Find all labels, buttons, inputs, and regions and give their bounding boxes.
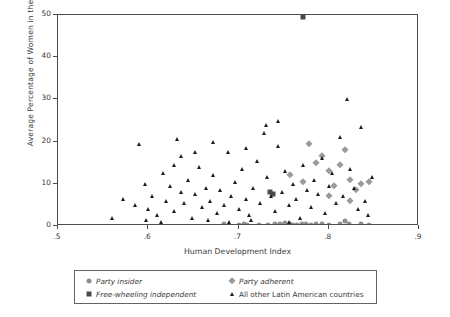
legend-label: All other Latin American countries [239,290,363,299]
data-point-triangle [359,125,363,129]
data-point-triangle [229,194,233,198]
legend-entry: Party adherent [227,275,294,287]
data-point-circle [266,222,271,224]
data-point-triangle [237,207,241,211]
data-point-triangle [193,150,197,154]
data-point-triangle [143,182,147,186]
data-point-triangle [121,197,125,201]
triangle-icon [230,292,234,296]
data-point-circle [222,222,227,224]
data-point-triangle [249,218,253,222]
data-point-triangle [200,205,204,209]
y-tick-label: 30 [21,93,51,102]
legend: Party insiderParty adherentFree-wheeling… [74,270,377,304]
data-point-triangle [150,194,154,198]
y-tick-label: 0 [21,220,51,229]
data-point-diamond [325,193,333,201]
data-point-triangle [370,175,374,179]
data-point-triangle [276,144,280,148]
data-point-triangle [227,220,231,224]
square-icon [87,292,92,297]
x-tick-label: .6 [132,232,162,241]
data-point-diamond [300,178,308,186]
data-point-circle [359,222,364,224]
scatter-plot-figure: Average Percentage of Women in the Cabin… [0,0,450,317]
data-point-triangle [262,131,266,135]
data-point-triangle [345,97,349,101]
data-point-triangle [155,213,159,217]
data-point-triangle [312,178,316,182]
data-point-triangle [233,180,237,184]
data-point-triangle [211,173,215,177]
data-point-triangle [273,209,277,213]
data-point-triangle [264,123,268,127]
data-point-triangle [144,218,148,222]
legend-label: Party adherent [239,277,294,286]
data-point-triangle [215,211,219,215]
data-point-triangle [133,203,137,207]
data-point-triangle [323,211,327,215]
data-point-diamond [347,176,355,184]
data-point-circle [326,222,331,224]
data-point-triangle [244,146,248,150]
y-tick-label: 20 [21,136,51,145]
data-point-triangle [366,213,370,217]
data-point-triangle [294,197,298,201]
data-point-triangle [197,165,201,169]
x-tick-mark [57,225,58,229]
data-point-triangle [291,182,295,186]
plot-frame [57,14,418,225]
data-point-triangle [190,216,194,220]
data-point-triangle [320,156,324,160]
x-axis-title: Human Development Index [57,247,418,256]
y-tick-label: 10 [21,178,51,187]
diamond-icon [228,277,236,285]
x-tick-mark [418,225,419,229]
data-point-triangle [240,167,244,171]
data-point-triangle [179,190,183,194]
data-point-triangle [301,163,305,167]
x-tick-label: .5 [42,232,72,241]
data-point-circle [244,223,249,224]
data-point-diamond [341,146,349,154]
legend-label: Free-wheeling independent [96,290,196,299]
data-point-triangle [211,140,215,144]
data-point-diamond [357,180,365,188]
data-point-triangle [159,220,163,224]
data-point-triangle [161,171,165,175]
legend-entry: All other Latin American countries [227,288,363,300]
data-point-triangle [182,201,186,205]
data-point-triangle [276,119,280,123]
data-point-triangle [251,186,255,190]
legend-entry: Party insider [84,275,142,287]
data-point-triangle [258,201,262,205]
legend-label: Party insider [96,277,142,286]
legend-marker-triangle-icon [227,289,237,299]
data-point-triangle [137,142,141,146]
data-point-triangle [168,184,172,188]
data-point-triangle [363,199,367,203]
data-point-triangle [298,216,302,220]
x-tick-mark [238,225,239,229]
data-point-triangle [222,203,226,207]
data-point-triangle [330,171,334,175]
legend-marker-square-icon [84,289,94,299]
data-point-triangle [338,135,342,139]
data-point-triangle [356,207,360,211]
x-tick-label: .7 [223,232,253,241]
data-point-triangle [269,194,273,198]
data-point-diamond [305,140,313,148]
data-point-triangle [280,190,284,194]
data-point-circle [272,222,277,224]
data-point-triangle [110,216,114,220]
data-point-triangle [287,203,291,207]
data-point-triangle [316,192,320,196]
data-point-triangle [334,201,338,205]
data-point-triangle [341,194,345,198]
data-point-triangle [204,186,208,190]
data-point-triangle [327,184,331,188]
data-point-triangle [255,159,259,163]
legend-entry: Free-wheeling independent [84,288,196,300]
data-point-triangle [226,150,230,154]
data-point-triangle [218,188,222,192]
